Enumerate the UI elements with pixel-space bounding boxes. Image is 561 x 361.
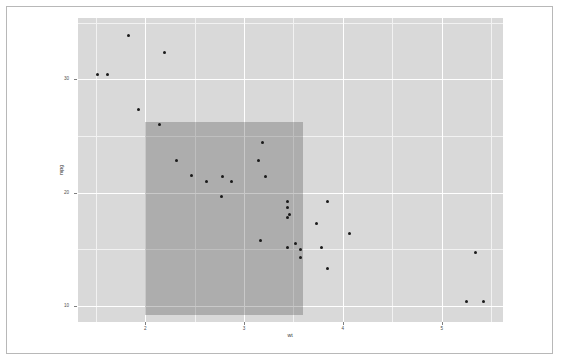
gridline-major-horizontal xyxy=(78,79,503,80)
x-axis-tick-label: 5 xyxy=(440,327,443,332)
y-axis-tick-mark xyxy=(74,193,77,194)
scatter-point xyxy=(205,180,208,183)
x-axis-tick-label: 3 xyxy=(243,327,246,332)
scatter-point xyxy=(127,34,130,37)
scatter-point xyxy=(190,174,193,177)
scatter-point xyxy=(474,251,477,254)
x-axis-tick-mark xyxy=(145,322,146,325)
scatter-point xyxy=(326,267,329,270)
y-axis-tick-mark xyxy=(74,79,77,80)
highlight-rect-annotation xyxy=(145,122,303,315)
y-axis-tick-mark xyxy=(74,306,77,307)
scatter-point xyxy=(286,246,289,249)
y-axis-title: mpg xyxy=(59,165,64,175)
scatter-point xyxy=(286,206,289,209)
x-axis-tick-mark xyxy=(244,322,245,325)
scatter-point xyxy=(299,256,302,259)
x-axis-tick-mark xyxy=(343,322,344,325)
scatter-point xyxy=(163,51,166,54)
scatter-point xyxy=(288,213,291,216)
scatter-point xyxy=(320,246,323,249)
gridline-major-vertical xyxy=(442,18,443,322)
scatter-point xyxy=(220,195,223,198)
scatter-point xyxy=(315,222,318,225)
scatter-point xyxy=(465,300,468,303)
scatter-point xyxy=(326,200,329,203)
plot-panel xyxy=(78,18,503,322)
scatter-point xyxy=(96,73,99,76)
x-axis-tick-label: 2 xyxy=(144,327,147,332)
scatter-point xyxy=(299,248,302,251)
ggplot-scatter-plot: 102030 2345 wt mpg xyxy=(0,0,561,361)
y-axis-tick-label: 20 xyxy=(64,190,69,195)
scatter-point xyxy=(137,108,140,111)
scatter-point xyxy=(482,300,485,303)
x-axis-tick-mark xyxy=(442,322,443,325)
gridline-minor-vertical xyxy=(491,18,492,322)
scatter-point xyxy=(158,123,161,126)
scatter-point xyxy=(348,232,351,235)
scatter-point xyxy=(106,73,109,76)
y-axis-tick-label: 10 xyxy=(64,304,69,309)
gridline-minor-vertical xyxy=(392,18,393,322)
gridline-minor-vertical xyxy=(96,18,97,322)
x-axis-tick-label: 4 xyxy=(342,327,345,332)
gridline-minor-horizontal xyxy=(78,23,503,24)
gridline-major-vertical xyxy=(343,18,344,322)
y-axis-tick-label: 30 xyxy=(64,77,69,82)
screenshot-root: 102030 2345 wt mpg xyxy=(0,0,561,361)
x-axis-title: wt xyxy=(287,333,292,338)
